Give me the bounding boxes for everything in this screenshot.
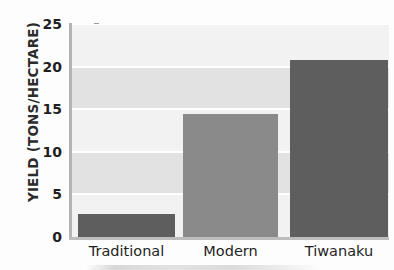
gridline-25 xyxy=(72,24,389,25)
y-tick-label-25: 25 xyxy=(30,16,62,32)
bar-modern xyxy=(183,114,278,237)
cut-off-caption-sliver xyxy=(86,265,322,270)
x-tick-label-traditional: Traditional xyxy=(89,243,165,259)
x-axis-tick-labels: TraditionalModernTiwanaku xyxy=(0,243,394,267)
y-tick-label-5: 5 xyxy=(30,186,62,202)
x-tick-label-modern: Modern xyxy=(203,243,257,259)
y-axis-tick-labels: 0510152025 xyxy=(30,0,62,270)
y-tick-label-20: 20 xyxy=(30,59,62,75)
bar-tiwanaku xyxy=(290,60,388,237)
y-tick-label-10: 10 xyxy=(30,144,62,160)
x-tick-label-tiwanaku: Tiwanaku xyxy=(305,243,373,259)
bar-chart-figure: YIELD (TONS/HECTARE) 0510152025 Traditio… xyxy=(0,0,394,270)
plot-area xyxy=(72,24,389,237)
x-axis-line xyxy=(69,237,389,240)
y-tick-label-15: 15 xyxy=(30,101,62,117)
bar-traditional xyxy=(78,214,175,237)
